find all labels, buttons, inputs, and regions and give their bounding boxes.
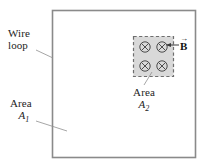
area1-symbol-wrap: A1 bbox=[10, 109, 32, 124]
area2-field-region bbox=[134, 37, 174, 77]
area1-label: Area A1 bbox=[10, 97, 32, 124]
b-field-symbol: B bbox=[180, 40, 187, 52]
physics-diagram-canvas bbox=[0, 0, 210, 167]
wire-loop-leader-line bbox=[36, 50, 53, 58]
area2-symbol-wrap: A2 bbox=[122, 98, 166, 113]
wire-loop-rectangle bbox=[53, 11, 196, 158]
wire-loop-label-line2: loop bbox=[8, 39, 30, 51]
b-field-label: → B bbox=[180, 37, 188, 52]
wire-loop-label-line1: Wire bbox=[8, 27, 30, 39]
wire-loop-label: Wire loop bbox=[8, 27, 30, 51]
area2-label-text: Area bbox=[133, 86, 155, 98]
area1-subscript: 1 bbox=[25, 115, 29, 124]
area2-label: Area A2 bbox=[122, 86, 166, 113]
area2-subscript: 2 bbox=[145, 104, 149, 113]
area1-label-text: Area bbox=[10, 97, 32, 109]
